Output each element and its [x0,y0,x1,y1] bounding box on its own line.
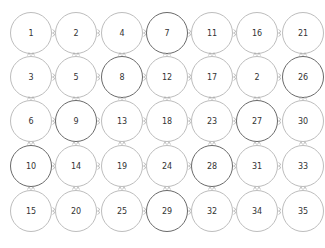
circle-node[interactable]: 20 [55,190,97,232]
circle-grid: 1247111621358121722669131823273010141924… [0,0,325,248]
circle-node[interactable]: 10 [10,145,52,187]
circle-node[interactable]: 12 [146,56,188,98]
node-label: 8 [119,73,124,82]
node-label: 14 [71,162,81,171]
circle-node[interactable]: 27 [236,100,278,142]
node-label: 35 [298,207,308,216]
circle-node[interactable]: 5 [55,56,97,98]
node-label: 30 [298,117,308,126]
circle-node[interactable]: 15 [10,190,52,232]
node-label: 12 [162,73,172,82]
node-label: 11 [207,29,217,38]
node-label: 2 [254,73,259,82]
circle-node[interactable]: 17 [191,56,233,98]
circle-node[interactable]: 1 [10,12,52,54]
circle-node[interactable]: 29 [146,190,188,232]
node-label: 21 [298,29,308,38]
circle-node[interactable]: 7 [146,12,188,54]
node-label: 5 [73,73,78,82]
circle-node[interactable]: 26 [282,56,324,98]
node-label: 27 [252,117,262,126]
circle-node[interactable]: 28 [191,145,233,187]
circle-node[interactable]: 3 [10,56,52,98]
circle-node[interactable]: 6 [10,100,52,142]
node-label: 24 [162,162,172,171]
circle-node[interactable]: 2 [55,12,97,54]
node-label: 26 [298,73,308,82]
node-label: 10 [26,162,36,171]
circle-node[interactable]: 11 [191,12,233,54]
node-label: 31 [252,162,262,171]
node-label: 18 [162,117,172,126]
node-label: 32 [207,207,217,216]
node-label: 28 [207,162,217,171]
circle-node[interactable]: 14 [55,145,97,187]
circle-node[interactable]: 16 [236,12,278,54]
circle-node[interactable]: 34 [236,190,278,232]
circle-node[interactable]: 4 [101,12,143,54]
circle-node[interactable]: 13 [101,100,143,142]
node-label: 33 [298,162,308,171]
circle-node[interactable]: 33 [282,145,324,187]
node-label: 25 [117,207,127,216]
circle-node[interactable]: 24 [146,145,188,187]
circle-node[interactable]: 23 [191,100,233,142]
circle-node[interactable]: 9 [55,100,97,142]
node-label: 3 [28,73,33,82]
circle-node[interactable]: 31 [236,145,278,187]
node-label: 34 [252,207,262,216]
circle-node[interactable]: 19 [101,145,143,187]
circle-node[interactable]: 32 [191,190,233,232]
circle-node[interactable]: 2 [236,56,278,98]
node-label: 29 [162,207,172,216]
circle-node[interactable]: 18 [146,100,188,142]
node-label: 23 [207,117,217,126]
node-label: 20 [71,207,81,216]
node-label: 1 [28,29,33,38]
node-label: 6 [28,117,33,126]
node-label: 17 [207,73,217,82]
node-label: 7 [164,29,169,38]
node-label: 4 [119,29,124,38]
node-label: 13 [117,117,127,126]
node-label: 2 [73,29,78,38]
circle-node[interactable]: 8 [101,56,143,98]
circle-node[interactable]: 35 [282,190,324,232]
node-label: 9 [73,117,78,126]
node-label: 19 [117,162,127,171]
circle-node[interactable]: 30 [282,100,324,142]
node-label: 15 [26,207,36,216]
circle-node[interactable]: 25 [101,190,143,232]
circle-node[interactable]: 21 [282,12,324,54]
node-label: 16 [252,29,262,38]
